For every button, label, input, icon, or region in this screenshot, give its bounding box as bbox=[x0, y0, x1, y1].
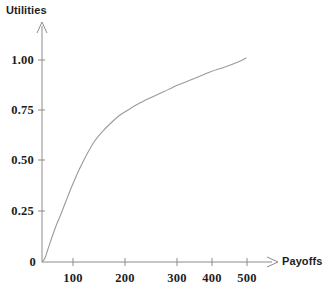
y-tick-label: 0.25 bbox=[0, 205, 34, 218]
utility-curve-chart: Utilities Payoffs 00.250.500.751.00 1002… bbox=[0, 0, 331, 300]
y-tick-label: 0.75 bbox=[0, 104, 34, 117]
x-tick-label: 500 bbox=[228, 272, 266, 285]
x-tick-label: 400 bbox=[193, 272, 231, 285]
y-axis bbox=[37, 22, 47, 262]
x-axis-title: Payoffs bbox=[282, 256, 322, 267]
y-tick-label: 1.00 bbox=[0, 54, 34, 67]
x-tick-label: 200 bbox=[106, 272, 144, 285]
y-axis-title: Utilities bbox=[6, 5, 47, 16]
x-tick-label: 100 bbox=[54, 272, 92, 285]
y-tick-label: 0.50 bbox=[0, 154, 34, 167]
y-tick-label: 0 bbox=[0, 256, 36, 269]
x-axis bbox=[42, 257, 278, 267]
utility-curve-line bbox=[42, 58, 246, 262]
x-tick-label: 300 bbox=[158, 272, 196, 285]
